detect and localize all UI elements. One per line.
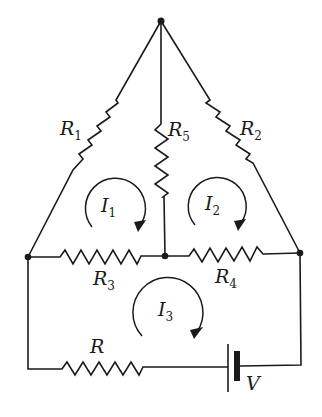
resistor-r4 (165, 247, 300, 262)
label-r5: R5 (167, 118, 190, 144)
label-r1: R1 (59, 117, 82, 143)
label-r: R (89, 335, 104, 357)
label-v: V (246, 372, 262, 394)
resistor-r (28, 257, 228, 375)
node-top (158, 18, 165, 25)
battery (228, 253, 301, 392)
label-r4: R4 (214, 265, 237, 291)
battery-short-plate (234, 351, 240, 381)
resistor-r5 (155, 21, 168, 256)
label-i1: I1 (100, 194, 116, 220)
label-i3: I3 (157, 298, 173, 324)
resistor-r3 (28, 250, 165, 264)
node-middle (162, 253, 169, 260)
node-left (25, 254, 32, 261)
label-i2: I2 (204, 192, 220, 218)
label-r3: R3 (92, 267, 115, 293)
label-r2: R2 (239, 117, 262, 143)
loop-i3-arrow-icon (133, 277, 203, 339)
node-right (297, 250, 304, 257)
circuit-diagram: R1 R5 R2 R3 R4 R V I1 I2 I3 (0, 0, 322, 417)
